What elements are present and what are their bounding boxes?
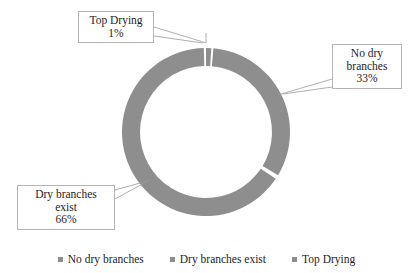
data-label-top-drying-value: 1%	[83, 27, 149, 40]
legend-label-top-drying: Top Drying	[302, 252, 355, 266]
data-label-dry-branches-exist[interactable]: Dry branches exist 66%	[17, 185, 115, 230]
chart-legend: No dry branches Dry branches exist Top D…	[0, 252, 413, 266]
data-label-dry-branches-exist-name-2: exist	[22, 201, 110, 214]
data-label-no-dry-branches-name-1: No dry	[337, 47, 397, 60]
data-label-top-drying-name: Top Drying	[83, 14, 149, 27]
legend-swatch-icon	[58, 257, 63, 262]
leader-line-top-drying	[154, 27, 206, 43]
legend-swatch-icon	[170, 257, 175, 262]
data-label-no-dry-branches-value: 33%	[337, 72, 397, 85]
data-label-no-dry-branches[interactable]: No dry branches 33%	[332, 44, 402, 89]
legend-item-dry-branches-exist[interactable]: Dry branches exist	[170, 252, 266, 266]
data-label-no-dry-branches-name-2: branches	[337, 60, 397, 73]
data-label-top-drying[interactable]: Top Drying 1%	[78, 11, 154, 43]
slice-no-dry-branches[interactable]	[212, 48, 290, 175]
doughnut-chart: Top Drying 1% No dry branches 33% Dry br…	[0, 0, 413, 273]
legend-label-no-dry-branches: No dry branches	[68, 252, 144, 266]
slice-top-drying[interactable]	[206, 48, 211, 66]
data-label-dry-branches-exist-value: 66%	[22, 213, 110, 226]
leader-line-no-dry-branches	[278, 79, 332, 95]
legend-item-no-dry-branches[interactable]: No dry branches	[58, 252, 144, 266]
doughnut-graphic	[0, 0, 413, 273]
legend-swatch-icon	[292, 257, 297, 262]
data-label-dry-branches-exist-name-1: Dry branches	[22, 188, 110, 201]
leader-line-no-dry-branches-secondary	[283, 87, 332, 94]
legend-item-top-drying[interactable]: Top Drying	[292, 252, 355, 266]
legend-label-dry-branches-exist: Dry branches exist	[180, 252, 266, 266]
leader-line-dry-branches-exist-secondary	[115, 182, 146, 199]
